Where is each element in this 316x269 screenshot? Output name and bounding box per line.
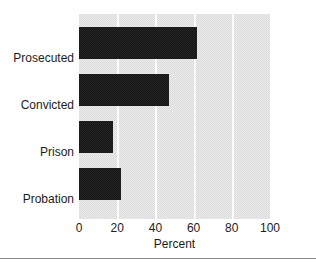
x-tick-80: 80: [225, 222, 238, 234]
plot-area: [79, 14, 270, 219]
gridline-80: [232, 14, 234, 219]
x-tick-60: 60: [187, 222, 200, 234]
bar-prison: [79, 121, 113, 153]
y-axis-label-prosecuted: Prosecuted: [0, 52, 74, 64]
bar-prosecuted: [79, 27, 197, 59]
y-axis-label-convicted: Convicted: [0, 99, 74, 111]
y-axis-label-probation: Probation: [0, 193, 74, 205]
x-axis-title: Percent: [79, 238, 270, 250]
x-tick-40: 40: [149, 222, 162, 234]
x-axis: 0 20 40 60 80 100: [79, 219, 270, 239]
x-tick-20: 20: [111, 222, 124, 234]
bar-chart-figure: Prosecuted Convicted Prison Probation 0 …: [0, 0, 316, 269]
y-axis-label-prison: Prison: [0, 146, 74, 158]
bar-convicted: [79, 74, 169, 106]
y-axis-labels: Prosecuted Convicted Prison Probation: [0, 14, 74, 219]
x-tick-100: 100: [260, 222, 280, 234]
x-tick-0: 0: [76, 222, 83, 234]
bottom-divider: [0, 258, 316, 259]
bar-probation: [79, 168, 121, 200]
